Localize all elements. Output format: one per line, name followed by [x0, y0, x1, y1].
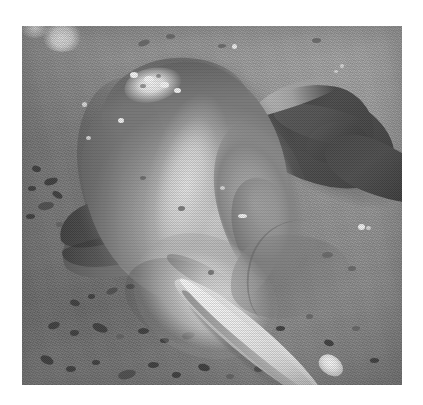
- wound-fleck: [174, 88, 181, 93]
- beak-tip: [315, 350, 347, 381]
- wound-dark-fleck: [140, 84, 146, 88]
- body-speck: [238, 214, 247, 218]
- wound-fleck: [130, 72, 138, 78]
- river-dolphin: [22, 26, 402, 385]
- body-speck: [118, 118, 124, 123]
- wound-fleck: [144, 76, 154, 83]
- wound-dark-fleck: [156, 74, 161, 78]
- wound-fleck: [160, 82, 169, 88]
- river-dolphin-carcass-photo: [22, 26, 402, 385]
- body-speck: [86, 136, 91, 140]
- body-speck: [220, 186, 225, 190]
- page-root: [0, 0, 423, 405]
